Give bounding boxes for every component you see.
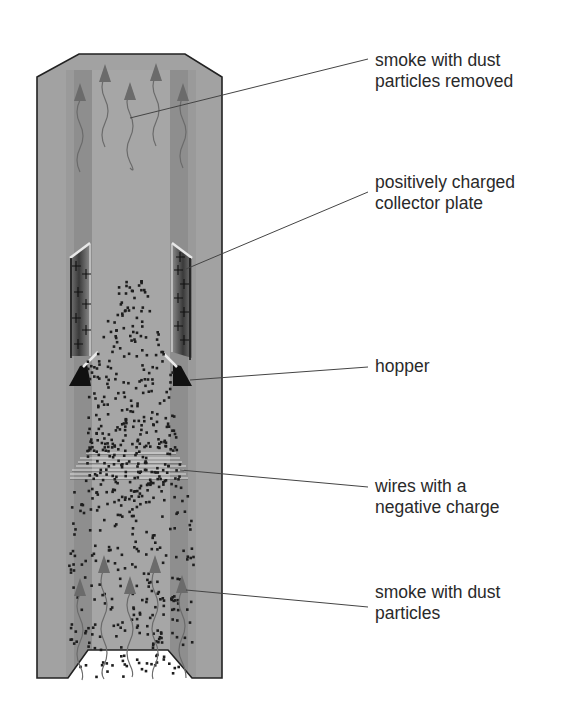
label-dirty-smoke: smoke with dust particles (375, 582, 500, 624)
collector-plate-left (70, 243, 91, 358)
collector-plate-right (172, 243, 192, 360)
wall-shade-right (188, 70, 196, 678)
label-collector-plate: positively charged collector plate (375, 172, 515, 214)
label-wires: wires with a negative charge (375, 476, 500, 518)
label-hopper: hopper (375, 356, 430, 377)
label-clean-smoke: smoke with dust particles removed (375, 50, 513, 92)
